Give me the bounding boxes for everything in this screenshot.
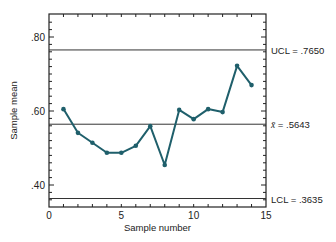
control-chart: UCL = .7650x̄ = .5643LCL = .3635 .40.60.… <box>0 0 336 242</box>
data-series <box>61 64 254 168</box>
data-point <box>119 151 124 156</box>
data-point <box>162 163 167 168</box>
x-tick-label: 15 <box>260 210 272 221</box>
data-point <box>177 108 182 113</box>
data-point <box>220 110 225 115</box>
data-point <box>61 107 66 112</box>
ucl-label: UCL = .7650 <box>271 45 324 56</box>
x-tick-label: 5 <box>119 210 125 221</box>
control-limit-lines: UCL = .7650x̄ = .5643LCL = .3635 <box>49 45 324 205</box>
plot-border <box>49 14 266 207</box>
axis-labels: .40.60.80051015Sample numberSample mean <box>8 32 272 233</box>
x-axis-title: Sample number <box>124 222 191 233</box>
data-point <box>191 117 196 122</box>
axis-ticks <box>49 14 266 207</box>
x-tick-label: 0 <box>46 210 52 221</box>
data-point <box>134 143 139 148</box>
x-tick-label: 10 <box>188 210 200 221</box>
y-axis-title: Sample mean <box>8 81 19 140</box>
data-point <box>249 83 254 88</box>
data-point <box>235 64 240 69</box>
y-tick-label: .60 <box>31 106 45 117</box>
plot-frame <box>49 14 266 207</box>
series-line <box>64 66 252 165</box>
data-point <box>148 124 153 129</box>
data-point <box>76 131 81 136</box>
data-point <box>206 107 211 112</box>
y-tick-label: .40 <box>31 180 45 191</box>
data-point <box>105 151 110 156</box>
y-tick-label: .80 <box>31 32 45 43</box>
data-point <box>90 141 95 146</box>
lcl-label: LCL = .3635 <box>271 194 323 205</box>
center-label: x̄ = .5643 <box>270 119 310 130</box>
